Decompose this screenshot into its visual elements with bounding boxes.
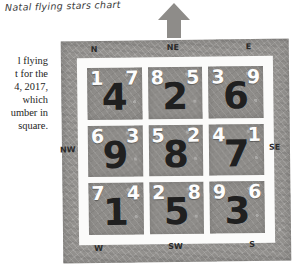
water-star: 2 — [187, 125, 200, 144]
body-line: t for the — [0, 67, 48, 80]
water-star: 9 — [247, 67, 260, 86]
grid-cell-e[interactable]: 3 6 9 — [208, 66, 263, 118]
grid-cell-center[interactable]: 5 8 2 — [148, 124, 203, 176]
compass-label-sw: SW — [168, 242, 183, 251]
page-title: Natal flying stars chart — [5, 0, 121, 13]
water-star: 7 — [125, 68, 138, 87]
grid-cell-w[interactable]: 7 1 4 — [88, 183, 143, 235]
body-line: umber in — [0, 106, 48, 119]
stars-grid: 1 4 7 8 2 5 3 6 9 6 9 3 5 8 — [87, 66, 265, 235]
body-line: 4, 2017, — [0, 80, 48, 93]
north-arrow-icon — [157, 2, 191, 38]
grid-cell-n[interactable]: 1 4 7 — [87, 67, 142, 119]
grid-cell-s[interactable]: 9 3 6 — [210, 181, 265, 233]
grid-cell-se[interactable]: 4 7 1 — [209, 124, 264, 176]
body-line: which — [0, 93, 48, 106]
body-line: l flying — [0, 54, 48, 67]
flying-stars-chart: N NE E NW SE W SW S 1 4 7 8 2 5 3 6 9 6 — [61, 39, 292, 264]
grid-cell-nw[interactable]: 6 9 3 — [88, 125, 143, 177]
water-star: 6 — [248, 182, 261, 201]
grid-cell-sw[interactable]: 2 5 8 — [149, 182, 204, 234]
water-star: 4 — [127, 184, 140, 203]
compass-label-nw: NW — [60, 145, 76, 154]
compass-label-w: W — [94, 244, 103, 253]
compass-label-n: N — [91, 45, 98, 54]
compass-label-s: S — [249, 240, 255, 249]
water-star: 8 — [187, 183, 200, 202]
compass-label-e: E — [246, 42, 252, 51]
compass-label-ne: NE — [167, 43, 179, 52]
body-text: l flying t for the 4, 2017, which umber … — [0, 54, 48, 133]
grid-cell-ne[interactable]: 8 2 5 — [148, 67, 203, 119]
chart-mat: 1 4 7 8 2 5 3 6 9 6 9 3 5 8 — [77, 56, 275, 245]
water-star: 3 — [126, 126, 139, 145]
body-line: square. — [0, 119, 48, 132]
water-star: 1 — [247, 125, 260, 144]
compass-label-se: SE — [269, 143, 280, 152]
water-star: 5 — [186, 68, 199, 87]
